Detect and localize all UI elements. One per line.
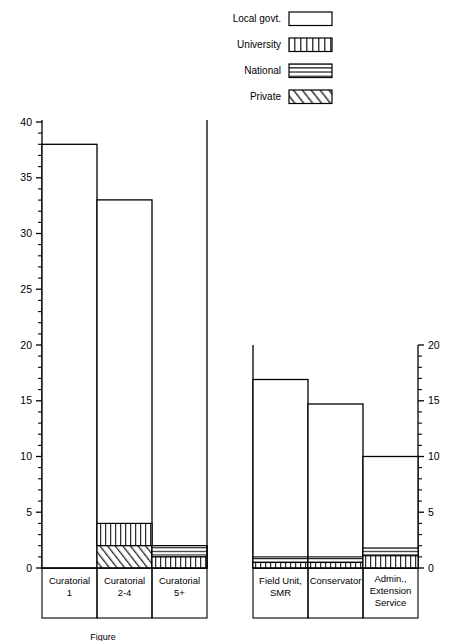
category-label-admin-line3: Service bbox=[375, 597, 407, 608]
category-label-field-unit-smr-line2: SMR bbox=[270, 587, 291, 598]
right-ytick-label-10: 10 bbox=[428, 450, 440, 462]
category-label-curatorial-5plus-line2: 5+ bbox=[174, 587, 185, 598]
left-ytick-label-25: 25 bbox=[20, 283, 32, 295]
legend-swatch-national bbox=[289, 64, 332, 78]
bar-segment-university bbox=[253, 563, 308, 569]
left-ytick-label-5: 5 bbox=[26, 506, 32, 518]
legend-label-private: Private bbox=[250, 91, 282, 102]
category-label-field-unit-smr-line1: Field Unit, bbox=[259, 575, 302, 586]
bar-segment-local-govt bbox=[97, 200, 152, 546]
bar-segment-university bbox=[97, 523, 152, 545]
bar-admin-extension-service bbox=[363, 457, 418, 569]
bar-segment-private bbox=[97, 546, 152, 568]
bar-conservator bbox=[308, 404, 363, 568]
bar-curatorial-2-4 bbox=[97, 200, 152, 568]
bar-segment-university bbox=[308, 563, 363, 569]
category-label-curatorial-1-line1: Curatorial bbox=[49, 575, 90, 586]
bar-segment-local-govt bbox=[253, 380, 308, 569]
left-ytick-label-35: 35 bbox=[20, 171, 32, 183]
right-ytick-label-0: 0 bbox=[428, 562, 434, 574]
bar-segment-national bbox=[253, 557, 308, 563]
category-label-admin-line1: Admin., bbox=[374, 573, 406, 584]
bar-field-unit-smr bbox=[253, 380, 308, 569]
legend-swatch-private bbox=[289, 90, 332, 104]
left-ytick-label-40: 40 bbox=[20, 116, 32, 128]
legend-label-university: University bbox=[237, 39, 281, 50]
bar-segment-local-govt bbox=[42, 144, 97, 568]
right-ytick-label-20: 20 bbox=[428, 339, 440, 351]
left-ytick-label-30: 30 bbox=[20, 227, 32, 239]
bar-chart-figure: Local govt. University National Private bbox=[0, 0, 450, 641]
left-ytick-label-15: 15 bbox=[20, 394, 32, 406]
legend-label-local-govt: Local govt. bbox=[233, 13, 281, 24]
bar-segment-university bbox=[152, 557, 207, 568]
bar-segment-university bbox=[363, 556, 418, 568]
left-ytick-label-10: 10 bbox=[20, 450, 32, 462]
bar-segment-local-govt bbox=[308, 404, 363, 568]
bar-segment-national bbox=[308, 557, 363, 563]
bar-segment-national bbox=[152, 546, 207, 557]
legend-label-national: National bbox=[244, 65, 281, 76]
left-ytick-label-0: 0 bbox=[26, 562, 32, 574]
category-label-admin-line2: Extension bbox=[370, 585, 412, 596]
right-ytick-label-5: 5 bbox=[428, 506, 434, 518]
figure-caption: Figure bbox=[90, 632, 116, 641]
category-label-curatorial-2-4-line1: Curatorial bbox=[104, 575, 145, 586]
left-ytick-label-20: 20 bbox=[20, 339, 32, 351]
legend-swatch-local-govt bbox=[289, 12, 332, 26]
category-label-curatorial-2-4-line2: 2-4 bbox=[118, 587, 132, 598]
figure-root: Local govt. University National Private bbox=[0, 0, 450, 641]
bar-segment-national bbox=[363, 548, 418, 556]
legend-item-private: Private bbox=[250, 90, 332, 104]
category-label-curatorial-5plus-line1: Curatorial bbox=[159, 575, 200, 586]
category-label-curatorial-1-line2: 1 bbox=[67, 587, 72, 598]
legend-swatch-university bbox=[289, 38, 332, 52]
bar-curatorial-1 bbox=[42, 144, 97, 568]
right-ytick-label-15: 15 bbox=[428, 394, 440, 406]
category-label-conservator-line1: Conservator bbox=[310, 575, 362, 586]
